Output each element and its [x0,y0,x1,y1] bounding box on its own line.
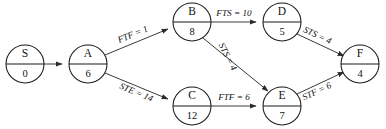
network-diagram: FTF = 1 STE = 14 FTS = 10 STS = 4 FTF = … [0,0,386,129]
node-c-label: C [188,89,196,101]
node-d-duration: 5 [279,26,284,37]
edge-b-e: STS = 4 [203,38,268,91]
edge-e-f-label: STF = 6 [301,80,333,102]
network-diagram-canvas: FTF = 1 STE = 14 FTS = 10 STS = 4 FTF = … [0,0,386,129]
edge-d-f-label: STS = 4 [302,24,333,46]
node-s[interactable]: S 0 [6,45,44,83]
edge-c-e: FTF = 6 [211,92,256,106]
node-b[interactable]: B 8 [173,3,211,41]
node-a[interactable]: A 6 [69,45,107,83]
edge-c-e-label: FTF = 6 [217,92,250,102]
edge-a-b: FTF = 1 [105,23,168,55]
edge-b-d: FTS = 10 [211,8,256,22]
node-a-duration: 6 [85,68,90,79]
edge-b-e-label: STS = 4 [217,41,240,72]
node-e[interactable]: E 7 [263,87,301,125]
node-e-label: E [278,89,285,101]
node-f-duration: 4 [357,68,363,79]
edge-d-f: STS = 4 [297,24,344,56]
edge-b-d-label: FTS = 10 [215,8,252,18]
node-a-label: A [84,47,93,59]
node-b-label: B [188,5,196,17]
edge-e-f: STF = 6 [297,72,344,102]
edge-a-b-label: FTF = 1 [115,23,149,45]
node-c[interactable]: C 12 [173,87,211,125]
edge-a-c-label: STE = 14 [118,81,155,104]
node-f-label: F [357,47,363,59]
node-b-duration: 8 [189,26,194,37]
node-s-label: S [22,47,28,59]
node-c-duration: 12 [187,110,198,121]
node-f[interactable]: F 4 [341,45,379,83]
edge-a-c: STE = 14 [105,73,168,104]
node-d-label: D [278,5,286,17]
node-s-duration: 0 [22,68,27,79]
node-d[interactable]: D 5 [263,3,301,41]
node-e-duration: 7 [279,110,284,121]
